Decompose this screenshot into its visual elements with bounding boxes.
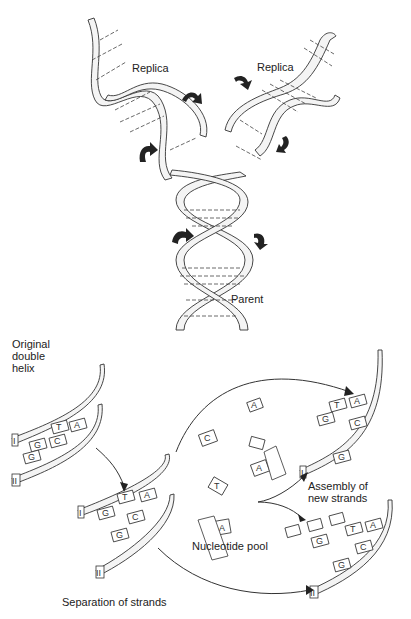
base-pieces: T A G C G (23, 418, 87, 464)
svg-text:G: G (102, 508, 109, 518)
svg-text:C: C (360, 542, 367, 552)
svg-text:G: G (316, 536, 323, 546)
strand-marker-II: II (96, 568, 101, 578)
label-replica-right: Replica (257, 61, 294, 73)
label-assembly-new-strands: Assembly of new strands (308, 480, 368, 504)
left-replica-helix (88, 18, 207, 180)
right-replica-helix (225, 33, 340, 160)
svg-text:A: A (74, 420, 80, 430)
arrow-head-icon (344, 386, 354, 396)
rotation-arrow-icon (254, 233, 268, 250)
svg-text:A: A (370, 520, 376, 530)
svg-text:T: T (56, 422, 62, 432)
svg-text:G: G (116, 530, 123, 540)
rotation-arrow-icon (140, 142, 158, 162)
svg-text:A: A (251, 400, 257, 410)
svg-text:G: G (338, 560, 345, 570)
svg-text:C: C (204, 433, 211, 443)
strand-marker-I: I (13, 436, 16, 446)
svg-text:T: T (334, 400, 340, 410)
svg-text:C: C (354, 418, 361, 428)
new-strand-bottom: II T A G C G (285, 500, 392, 598)
svg-text:A: A (256, 463, 262, 473)
svg-text:C: C (132, 512, 139, 522)
svg-text:A: A (219, 523, 225, 533)
svg-text:T: T (350, 524, 356, 534)
label-parent: Parent (231, 293, 263, 305)
replication-diagram: I II T A G C G I II T A G C G C A A T A (0, 0, 411, 619)
svg-text:G: G (28, 452, 35, 462)
svg-text:T: T (214, 481, 220, 491)
svg-text:A: A (354, 396, 360, 406)
strand-marker-II: II (12, 476, 17, 486)
strand-marker-I: I (79, 508, 82, 518)
label-replica-left: Replica (132, 62, 169, 74)
svg-text:A: A (144, 490, 150, 500)
label-nucleotide-pool: Nucleotide pool (192, 540, 268, 552)
rotation-arrow-icon (234, 76, 252, 90)
svg-text:T: T (122, 492, 128, 502)
label-original-double-helix: Original double helix (12, 338, 50, 374)
label-separation-of-strands: Separation of strands (62, 596, 167, 608)
new-strand-top: I T A G C G (300, 350, 382, 478)
nucleotide-pool: C A A T A (198, 398, 286, 560)
parent-helix (170, 170, 253, 330)
original-helix: I II T A G C G (12, 364, 105, 486)
rotation-arrow-icon (276, 136, 289, 153)
svg-text:G: G (322, 414, 329, 424)
svg-text:G: G (338, 452, 345, 462)
separated-helix: I II T A G C G (78, 454, 174, 578)
arrow-head-icon (298, 514, 306, 522)
svg-text:G: G (34, 440, 41, 450)
svg-text:C: C (54, 436, 61, 446)
